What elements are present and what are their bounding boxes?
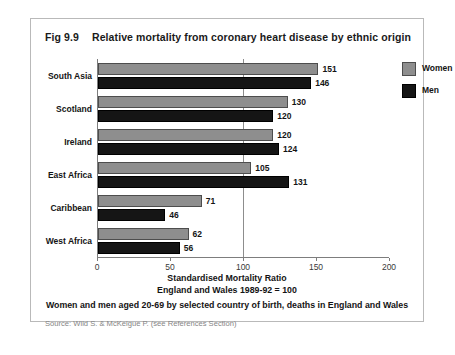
x-axis-title-line2: England and Wales 1989-92 = 100 [31,285,423,297]
bar-row: 120 [98,129,390,141]
figure-title: Fig 9.9Relative mortality from coronary … [45,31,411,43]
figure-frame: Fig 9.9Relative mortality from coronary … [30,18,424,322]
x-tick [243,258,244,261]
x-tick-label: 100 [236,262,250,272]
figure-source: Source: Wild S. & McKeigue P. (see Refer… [45,319,236,328]
figure-subtitle: Women and men aged 20-69 by selected cou… [31,300,423,310]
bar-women[interactable] [98,63,318,75]
bar-group: South Asia151146 [98,63,389,89]
bar-row: 131 [98,176,390,188]
bar-value-label: 46 [169,209,178,221]
category-label: East Africa [30,170,92,180]
bar-value-label: 105 [255,162,269,174]
x-tick [389,258,390,261]
bar-men[interactable] [98,242,180,254]
bar-row: 130 [98,96,390,108]
bar-group: Caribbean7146 [98,195,389,221]
legend-swatch-women [402,62,416,76]
bar-row: 120 [98,110,390,122]
bar-value-label: 124 [283,143,297,155]
bar-men[interactable] [98,209,165,221]
bar-group: Ireland120124 [98,129,389,155]
x-tick [170,258,171,261]
bar-row: 105 [98,162,390,174]
bar-group: East Africa105131 [98,162,389,188]
bar-women[interactable] [98,162,251,174]
category-label: Caribbean [30,203,92,213]
figure-title-text: Relative mortality from coronary heart d… [92,31,411,43]
bar-value-label: 71 [206,195,215,207]
legend-label-women: Women [422,63,453,73]
bar-row: 146 [98,77,390,89]
bar-row: 62 [98,228,390,240]
bar-women[interactable] [98,228,189,240]
bar-men[interactable] [98,110,273,122]
x-tick-label: 0 [95,262,100,272]
legend-label-men: Men [422,85,439,95]
bar-row: 71 [98,195,390,207]
bar-value-label: 151 [322,63,336,75]
bar-value-label: 131 [293,176,307,188]
bar-group: Scotland130120 [98,96,389,122]
bar-value-label: 120 [277,129,291,141]
bar-group: West Africa6256 [98,228,389,254]
bar-men[interactable] [98,176,289,188]
x-axis-title-line1: Standardised Mortality Ratio [31,273,423,285]
bar-row: 151 [98,63,390,75]
bar-value-label: 130 [292,96,306,108]
bar-value-label: 62 [193,228,202,240]
bar-row: 124 [98,143,390,155]
bar-men[interactable] [98,143,279,155]
bar-value-label: 120 [277,110,291,122]
x-tick-label: 50 [165,262,174,272]
chart-plot-area: South Asia151146Scotland130120Ireland120… [97,59,389,257]
x-tick-label: 200 [382,262,396,272]
bar-value-label: 56 [184,242,193,254]
x-tick-label: 150 [309,262,323,272]
category-label: Ireland [30,137,92,147]
bar-women[interactable] [98,195,202,207]
category-label: Scotland [30,104,92,114]
bar-row: 46 [98,209,390,221]
legend-swatch-men [402,84,416,98]
category-label: West Africa [30,236,92,246]
x-axis-title: Standardised Mortality Ratio England and… [31,273,423,296]
x-tick [97,258,98,261]
bar-men[interactable] [98,77,311,89]
x-tick [316,258,317,261]
bar-women[interactable] [98,129,273,141]
figure-number: Fig 9.9 [45,31,79,43]
bar-women[interactable] [98,96,288,108]
bar-row: 56 [98,242,390,254]
bar-value-label: 146 [315,77,329,89]
category-label: South Asia [30,71,92,81]
